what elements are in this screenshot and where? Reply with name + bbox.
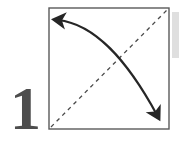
diagram-canvas: 1 xyxy=(0,0,179,143)
origami-instruction-figure: 1 xyxy=(0,0,179,143)
step-number-label: 1 xyxy=(10,74,41,142)
page-edge-shadow-strip xyxy=(172,12,179,58)
